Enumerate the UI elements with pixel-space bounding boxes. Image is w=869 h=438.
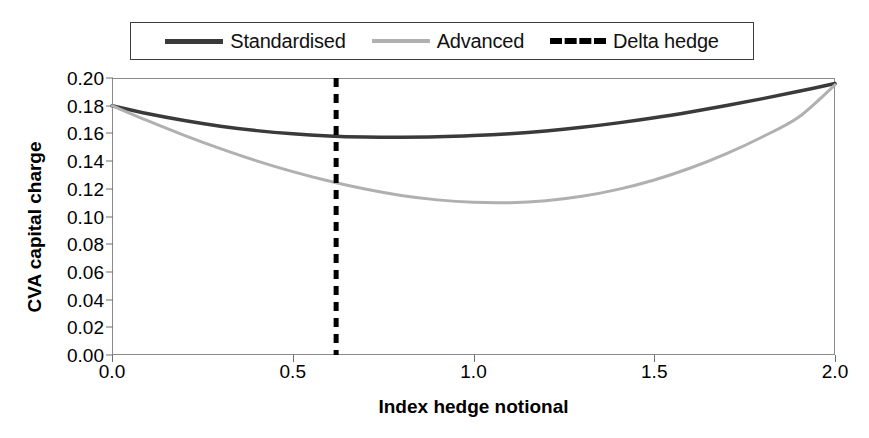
y-axis-title: CVA capital charge bbox=[24, 87, 46, 367]
x-axis-title: Index hedge notional bbox=[112, 396, 835, 418]
y-tick-label: 0.10 bbox=[40, 207, 104, 226]
y-tick-label: 0.02 bbox=[40, 318, 104, 337]
x-tick-label: 0.0 bbox=[99, 362, 125, 381]
x-tick-label: 2.0 bbox=[822, 362, 848, 381]
legend-swatch-advanced-line-icon bbox=[372, 39, 430, 43]
legend-label-standardised: Standardised bbox=[230, 31, 345, 51]
legend-item-delta-hedge: Delta hedge bbox=[550, 31, 719, 51]
x-tick-label: 1.0 bbox=[460, 362, 486, 381]
y-tick-label: 0.20 bbox=[40, 69, 104, 88]
series-line-standardised bbox=[112, 84, 835, 138]
x-tick-label: 0.5 bbox=[280, 362, 306, 381]
legend-swatch-delta-hedge-dashed-icon bbox=[550, 38, 606, 44]
y-tick-label: 0.16 bbox=[40, 124, 104, 143]
x-tick-mark bbox=[835, 355, 836, 362]
x-tick-label: 1.5 bbox=[641, 362, 667, 381]
y-tick-label: 0.06 bbox=[40, 262, 104, 281]
y-tick-label: 0.00 bbox=[40, 346, 104, 365]
legend-item-standardised: Standardised bbox=[165, 31, 345, 51]
x-tick-mark bbox=[654, 355, 655, 362]
legend-item-advanced: Advanced bbox=[372, 31, 524, 51]
y-tick-label: 0.12 bbox=[40, 179, 104, 198]
x-tick-mark bbox=[474, 355, 475, 362]
y-tick-label: 0.04 bbox=[40, 290, 104, 309]
chart-legend: Standardised Advanced Delta hedge bbox=[130, 22, 754, 60]
chart-figure: Standardised Advanced Delta hedge 0.000.… bbox=[0, 0, 869, 438]
series-line-advanced bbox=[112, 85, 835, 203]
legend-swatch-standardised-line-icon bbox=[165, 39, 223, 44]
y-tick-label: 0.18 bbox=[40, 96, 104, 115]
y-tick-label: 0.08 bbox=[40, 235, 104, 254]
legend-label-advanced: Advanced bbox=[437, 31, 524, 51]
x-tick-mark bbox=[112, 355, 113, 362]
y-tick-label: 0.14 bbox=[40, 152, 104, 171]
plot-curves bbox=[112, 78, 835, 355]
y-axis-tick-labels: 0.000.020.040.060.080.100.120.140.160.18… bbox=[38, 78, 104, 355]
x-tick-mark bbox=[293, 355, 294, 362]
legend-label-delta-hedge: Delta hedge bbox=[613, 31, 719, 51]
